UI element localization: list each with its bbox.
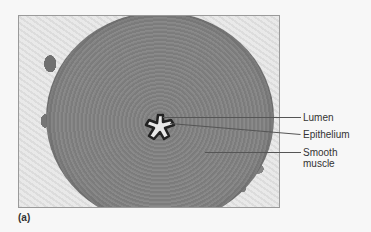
label-smooth: Smooth	[303, 147, 337, 158]
label-lumen: Lumen	[303, 112, 334, 123]
lumen-leader-line	[163, 117, 301, 118]
label-muscle: muscle	[303, 158, 335, 169]
micrograph	[18, 15, 280, 208]
smooth-muscle-leader-line	[205, 152, 301, 153]
panel-letter: (a)	[18, 212, 30, 223]
label-epithelium: Epithelium	[303, 129, 350, 140]
